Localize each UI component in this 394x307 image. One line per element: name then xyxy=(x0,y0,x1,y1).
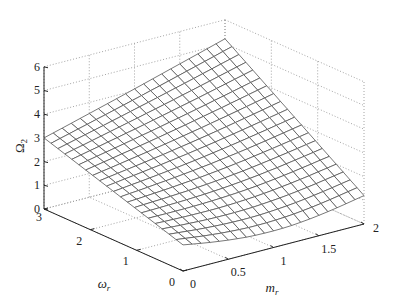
z-tick xyxy=(44,185,48,186)
surface-mesh xyxy=(44,39,364,245)
z-tick-label: 3 xyxy=(34,131,40,145)
omega-tick-label: 0 xyxy=(169,275,175,289)
m-tick-label: 2 xyxy=(373,221,379,235)
z-tick-label: 1 xyxy=(34,178,40,192)
z-tick-label: 5 xyxy=(34,83,40,97)
x-axis-label: mr xyxy=(266,280,279,297)
omega-tick-label: 1 xyxy=(123,254,129,268)
omega-tick-label: 2 xyxy=(76,234,82,248)
z-axis-label: Ω2 xyxy=(12,139,29,153)
z-tick xyxy=(44,67,48,68)
omega-tick xyxy=(137,249,141,250)
m-tick-label: 1.5 xyxy=(321,242,336,256)
z-tick xyxy=(44,162,48,163)
m-tick xyxy=(271,246,274,248)
z-tick xyxy=(44,114,48,115)
omega-tick-label: 3 xyxy=(36,210,42,224)
z-tick-label: 6 xyxy=(34,60,40,74)
m-tick-label: 1 xyxy=(281,254,287,268)
m-tick xyxy=(316,234,319,236)
m-tick-label: 0 xyxy=(190,277,196,291)
surface-plot: 0123456012300.511.52 Ω2 ωr mr xyxy=(0,0,394,307)
z-tick xyxy=(44,90,48,91)
z-tick-label: 4 xyxy=(34,107,40,121)
omega-tick xyxy=(44,208,48,209)
omega-tick xyxy=(90,229,94,230)
y-axis-label: ωr xyxy=(98,276,111,293)
z-tick-label: 2 xyxy=(34,155,40,169)
m-tick-label: 0.5 xyxy=(231,265,246,279)
omega-tick xyxy=(183,270,187,271)
m-tick xyxy=(225,257,228,259)
